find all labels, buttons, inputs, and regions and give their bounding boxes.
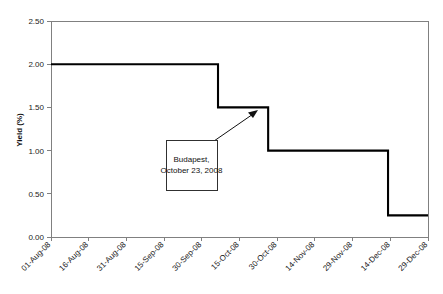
y-tick-label-3: 1.50 [28,103,44,112]
y-tick-label-1: 0.50 [28,190,44,199]
y-tick-label-4: 2.00 [28,60,44,69]
y-tick-label-0: 0.00 [28,233,44,242]
yield-step-chart: 0.00 0.50 1.00 1.50 2.00 2.50 Yield (%) [0,0,443,294]
chart-svg: 0.00 0.50 1.00 1.50 2.00 2.50 Yield (%) [0,0,443,294]
budapest-annotation-box: Budapest, October 23, 2008 [161,140,223,190]
y-tick-label-2: 1.00 [28,147,44,156]
y-axis-title: Yield (%) [15,113,24,147]
annotation-line-2: October 23, 2008 [161,166,223,175]
y-tick-label-5: 2.50 [28,17,44,26]
svg-text:Yield (%): Yield (%) [15,113,24,147]
annotation-line-1: Budapest, [173,155,209,164]
